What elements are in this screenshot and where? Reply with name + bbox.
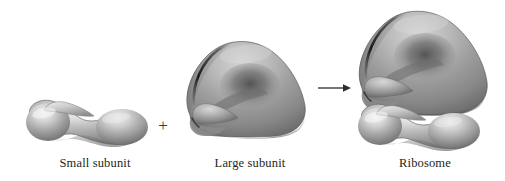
ribosome-diagram-svg [0,0,505,181]
ribosome-assembly-figure: + Small subunit Large subunit Ribosome [0,0,505,181]
large-subunit-shape [187,40,305,139]
small-subunit-shape [26,100,148,147]
arrow-right-icon [318,84,351,92]
small-subunit-label: Small subunit [20,157,170,170]
large-subunit-label: Large subunit [175,157,325,170]
ribosome-shape [358,9,487,151]
plus-sign: + [155,117,171,134]
ribosome-label: Ribosome [350,157,500,170]
ribosome-large-subunit [359,9,487,116]
